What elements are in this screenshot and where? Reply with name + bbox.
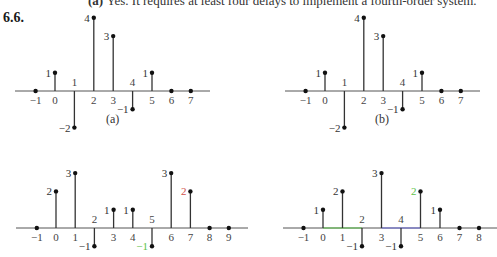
index-label: 7 <box>457 231 463 243</box>
index-label: 1 <box>342 76 348 88</box>
value-label: 1 <box>123 204 129 216</box>
stem-marker <box>477 226 481 230</box>
value-label: −2 <box>59 122 71 134</box>
index-label: 8 <box>476 231 482 243</box>
index-label: −1 <box>300 94 312 106</box>
value-label: 4 <box>354 12 360 24</box>
index-label: 3 <box>379 231 385 243</box>
value-label: 1 <box>413 67 419 79</box>
index-label: 3 <box>380 94 386 106</box>
stem-marker <box>301 226 305 230</box>
stem-marker <box>169 171 173 175</box>
index-label: 3 <box>111 231 117 243</box>
value-label: 2 <box>333 185 339 197</box>
stem-marker <box>303 89 307 93</box>
value-label: −2 <box>329 122 341 134</box>
stem-marker <box>130 107 134 111</box>
index-label: 2 <box>92 213 98 225</box>
index-label: 5 <box>419 94 425 106</box>
index-label: 0 <box>320 231 326 243</box>
stem-marker <box>399 244 403 248</box>
stem-marker <box>54 189 58 193</box>
stem-marker <box>379 171 383 175</box>
value-label: 1 <box>316 67 322 79</box>
stem-marker <box>111 34 115 38</box>
index-label: 5 <box>149 213 155 225</box>
index-label: 6 <box>437 231 443 243</box>
index-label: 6 <box>169 94 175 106</box>
stem-marker <box>342 125 346 129</box>
stem-marker <box>459 89 463 93</box>
index-label: 7 <box>188 231 194 243</box>
index-label: −1 <box>30 94 42 106</box>
stem-marker <box>111 208 115 212</box>
index-label: 2 <box>359 213 365 225</box>
value-label: 2 <box>181 185 187 197</box>
value-label: −1 <box>136 240 148 252</box>
index-label: 6 <box>168 231 174 243</box>
stem-marker <box>439 89 443 93</box>
value-label: −1 <box>385 240 397 252</box>
index-label: 0 <box>52 94 58 106</box>
index-label: 8 <box>207 231 213 243</box>
stem-marker <box>340 189 344 193</box>
value-label: 3 <box>374 30 380 42</box>
stem-marker <box>323 71 327 75</box>
caption-b: (b) <box>375 112 389 127</box>
value-label: 1 <box>46 67 52 79</box>
value-label: 4 <box>84 12 90 24</box>
value-label: 3 <box>162 167 168 179</box>
index-label: 4 <box>400 76 406 88</box>
value-label: 1 <box>431 204 437 216</box>
stem-marker <box>381 34 385 38</box>
value-label: 3 <box>104 30 110 42</box>
value-label: −1 <box>346 240 358 252</box>
stem-marker <box>420 71 424 75</box>
stem-marker <box>188 189 192 193</box>
stem-marker <box>207 226 211 230</box>
value-label: 1 <box>104 204 110 216</box>
index-label: 1 <box>340 231 346 243</box>
index-label: 1 <box>72 76 78 88</box>
index-label: 0 <box>53 231 59 243</box>
index-label: 7 <box>458 94 464 106</box>
value-label: 3 <box>372 167 378 179</box>
index-label: 4 <box>130 231 136 243</box>
stem-marker <box>418 189 422 193</box>
value-label: 1 <box>143 67 149 79</box>
stem-plots: −1011−224334−15167−1011−224334−15167−102… <box>0 0 497 257</box>
stem-marker <box>438 208 442 212</box>
stem-marker <box>92 244 96 248</box>
stem-marker <box>400 107 404 111</box>
index-label: 7 <box>188 94 194 106</box>
index-label: 0 <box>322 94 328 106</box>
stem-marker <box>35 226 39 230</box>
index-label: 1 <box>72 231 78 243</box>
stem-marker <box>360 244 364 248</box>
index-label: 4 <box>398 213 404 225</box>
stem-marker <box>73 171 77 175</box>
index-label: −1 <box>298 231 310 243</box>
stem-marker <box>131 208 135 212</box>
value-label: 1 <box>314 204 320 216</box>
stem-marker <box>362 16 366 20</box>
index-label: 9 <box>226 231 232 243</box>
index-label: 5 <box>149 94 155 106</box>
stem-marker <box>53 71 57 75</box>
value-label: 2 <box>411 185 417 197</box>
stem-marker <box>227 226 231 230</box>
stem-marker <box>457 226 461 230</box>
index-label: −1 <box>31 231 43 243</box>
index-label: 6 <box>439 94 445 106</box>
value-label: −1 <box>79 240 91 252</box>
index-label: 3 <box>110 94 116 106</box>
stem-marker <box>33 89 37 93</box>
caption-a: (a) <box>106 112 119 127</box>
stem-marker <box>169 89 173 93</box>
stem-marker <box>321 208 325 212</box>
index-label: 5 <box>418 231 424 243</box>
stem-marker <box>72 125 76 129</box>
stem-marker <box>189 89 193 93</box>
value-label: 3 <box>66 167 72 179</box>
index-label: 4 <box>130 76 136 88</box>
